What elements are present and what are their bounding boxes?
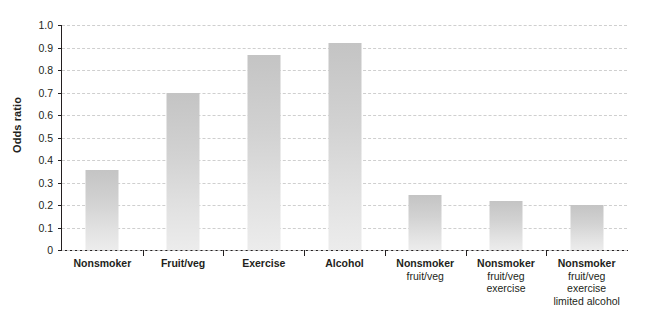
y-axis-tick-label: 0.5 [23, 132, 53, 143]
bar-slot [385, 25, 466, 250]
x-axis-label: Exercise [223, 252, 304, 314]
x-axis-label-line: limited alcohol [546, 295, 627, 308]
y-axis-tick-label: 0.2 [23, 200, 53, 211]
x-axis-label: Nonsmokerfruit/vegexerciselimited alcoho… [546, 252, 627, 314]
x-axis-label-line: Nonsmoker [546, 257, 627, 270]
y-axis-tick-label: 0.9 [23, 42, 53, 53]
x-axis-label-line: fruit/veg [385, 270, 466, 283]
x-axis-label-line: Nonsmoker [62, 257, 143, 270]
x-axis-label: Alcohol [304, 252, 385, 314]
bar-slot [304, 25, 385, 250]
y-axis-tick-label: 0.8 [23, 65, 53, 76]
bar-slot [466, 25, 547, 250]
x-axis-separator-tick [466, 250, 467, 256]
x-axis-label: Nonsmokerfruit/vegexercise [466, 252, 547, 314]
bar [409, 195, 442, 250]
x-axis-separator-tick [546, 250, 547, 256]
x-axis-separator-tick [143, 250, 144, 256]
bar-slot [223, 25, 304, 250]
bar-chart: Odds ratio 1.00.90.80.70.60.50.40.30.20.… [0, 0, 648, 318]
bar-slot [546, 25, 627, 250]
x-axis-separator-tick [304, 250, 305, 256]
bar-slot [143, 25, 224, 250]
x-axis-label-line: fruit/veg [546, 270, 627, 283]
x-axis-label-line: Nonsmoker [385, 257, 466, 270]
x-axis-label: Nonsmokerfruit/veg [385, 252, 466, 314]
x-axis-label-line: Exercise [223, 257, 304, 270]
x-axis-label-line: Alcohol [304, 257, 385, 270]
y-axis-ticks: 1.00.90.80.70.60.50.40.30.20.10 [0, 25, 62, 250]
x-axis-label-line: Nonsmoker [466, 257, 547, 270]
y-axis-tick-label: 0.6 [23, 110, 53, 121]
bar [570, 205, 603, 250]
gridline [62, 250, 627, 251]
x-axis-label-line: Fruit/veg [143, 257, 224, 270]
bar [167, 93, 200, 251]
x-axis-label: Nonsmoker [62, 252, 143, 314]
x-axis-separator-tick [385, 250, 386, 256]
bar-slot [62, 25, 143, 250]
bar-series [62, 25, 627, 250]
bar [328, 43, 361, 250]
y-axis-tick-label: 0.3 [23, 177, 53, 188]
y-axis-tick-label: 0 [23, 245, 53, 256]
plot-area [62, 25, 627, 250]
bar [86, 170, 119, 250]
bar [489, 201, 522, 251]
x-axis-label-line: exercise [466, 282, 547, 295]
y-axis-tick-label: 0.1 [23, 222, 53, 233]
y-axis-tick-label: 0.7 [23, 87, 53, 98]
bar [247, 55, 280, 250]
x-axis-label: Fruit/veg [143, 252, 224, 314]
y-axis-tick-label: 0.4 [23, 155, 53, 166]
x-axis-separator-tick [223, 250, 224, 256]
y-axis-tick-label: 1.0 [23, 20, 53, 31]
x-axis-label-line: exercise [546, 282, 627, 295]
x-axis-labels: NonsmokerFruit/vegExerciseAlcoholNonsmok… [62, 252, 627, 314]
x-axis-label-line: fruit/veg [466, 270, 547, 283]
